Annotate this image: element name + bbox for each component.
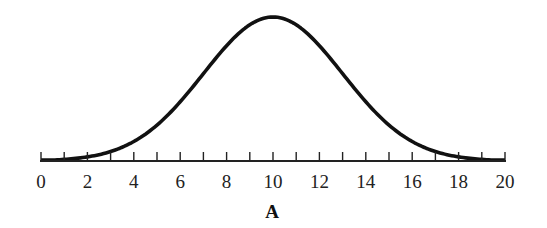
x-tick-label: 10 (264, 171, 283, 192)
x-tick-label: 4 (129, 171, 139, 192)
x-axis-title: A (265, 201, 279, 222)
x-tick-label: 6 (175, 171, 185, 192)
x-tick-label: 18 (449, 171, 468, 192)
distribution-curve (41, 17, 505, 160)
x-tick-label: 16 (403, 171, 422, 192)
x-tick-label: 20 (496, 171, 515, 192)
x-tick-label: 12 (310, 171, 329, 192)
x-tick-label: 0 (36, 171, 46, 192)
x-tick-label: 14 (356, 171, 376, 192)
x-tick-label: 2 (83, 171, 93, 192)
bell-curve-line (41, 17, 505, 160)
x-tick-label: 8 (222, 171, 232, 192)
normal-curve-chart: 02468101214161820 A (0, 0, 547, 228)
x-tick-labels: 02468101214161820 (36, 171, 514, 192)
